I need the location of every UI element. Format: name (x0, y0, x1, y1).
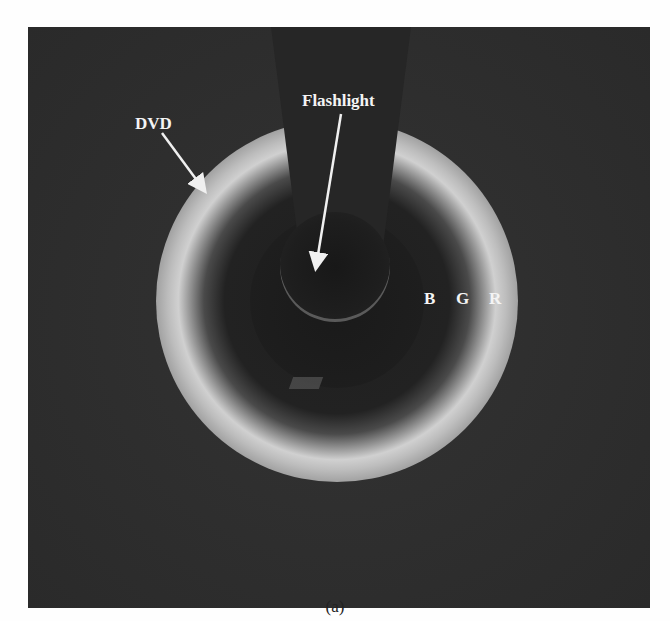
flashlight-arrow-icon (316, 114, 341, 267)
flashlight-label: Flashlight (302, 91, 375, 111)
dvd-label: DVD (135, 114, 172, 134)
dvd-diffraction-photo: DVD Flashlight B G R (28, 27, 650, 608)
band-label-g: G (456, 289, 469, 309)
band-label-r: R (489, 289, 501, 309)
figure-caption: (a) (0, 597, 670, 617)
dvd-arrow-icon (162, 133, 204, 190)
annotation-arrows (28, 27, 650, 608)
band-label-b: B (424, 289, 435, 309)
